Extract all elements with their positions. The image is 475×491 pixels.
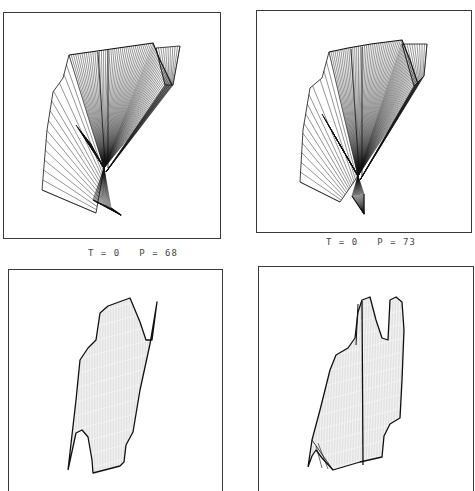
surface-drawing-bottom-left <box>60 280 165 488</box>
surface-drawing-bottom-right <box>300 280 413 488</box>
fan-drawing-top-left <box>42 43 180 215</box>
fan-drawing-top-right <box>300 40 427 214</box>
